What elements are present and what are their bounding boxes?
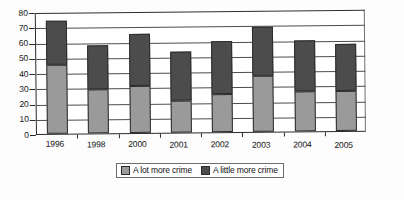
bar-segment: [294, 40, 315, 92]
legend-label-a-lot-more-crime: A lot more crime: [133, 166, 192, 175]
y-axis-tick-label: 10: [19, 115, 28, 124]
x-axis-label-1998: 1998: [87, 139, 106, 149]
bar-series-container: [36, 10, 366, 134]
legend-item-a-lot-more-crime: A lot more crime: [121, 166, 192, 175]
bar-segment: [335, 91, 356, 131]
bar-segment: [46, 21, 67, 65]
bar-segment: [211, 41, 233, 95]
bar-segment: [252, 26, 273, 75]
chart-legend: A lot more crime A little more crime: [116, 163, 284, 178]
bar-segment: [129, 86, 150, 133]
y-axis-tick-label: 40: [19, 70, 28, 79]
bar-group: [293, 10, 315, 131]
bar-segment: [170, 52, 191, 101]
y-axis-tick-label: 70: [19, 24, 28, 33]
legend-item-a-little-more-crime: A little more crime: [201, 166, 278, 175]
y-axis-tick-label: 20: [19, 100, 28, 109]
bar-segment: [294, 92, 315, 132]
y-axis-tick-label: 0: [24, 131, 29, 140]
x-axis-label-2000: 2000: [128, 139, 147, 149]
y-axis-tick-label: 50: [19, 54, 28, 63]
bar-segment: [212, 94, 233, 132]
bar-chart: 01020304050607080 1996199820002001200220…: [0, 0, 404, 200]
bar-group: [335, 10, 357, 131]
y-axis-tick-label: 80: [18, 9, 27, 18]
bar-segment: [253, 75, 275, 132]
x-axis-label-2004: 2004: [293, 140, 312, 150]
bar-group: [128, 12, 150, 133]
bar-group: [211, 11, 233, 132]
bar-group: [46, 13, 68, 134]
y-axis-tick-label: 30: [19, 85, 28, 94]
x-axis-label-2001: 2001: [169, 139, 188, 149]
bar-group: [87, 12, 109, 133]
bar-segment: [87, 45, 108, 89]
x-axis-label-1996: 1996: [46, 139, 65, 149]
bar-segment: [46, 65, 68, 134]
x-axis-label-2005: 2005: [334, 140, 353, 150]
x-axis-label-2003: 2003: [252, 139, 271, 149]
legend-swatch-a-little-more-crime: [201, 166, 210, 175]
legend-swatch-a-lot-more-crime: [121, 166, 130, 175]
y-axis-tick-label: 60: [19, 39, 28, 48]
bar-segment: [88, 89, 109, 133]
y-axis: 01020304050607080: [0, 0, 36, 136]
bar-group: [252, 11, 274, 132]
bar-group: [170, 11, 192, 132]
plot-area: [35, 10, 366, 135]
legend-label-a-little-more-crime: A little more crime: [213, 166, 278, 175]
x-axis-label-2002: 2002: [211, 139, 230, 149]
bar-segment: [335, 44, 356, 91]
x-axis-labels: 19961998200020012002200320042005: [36, 136, 372, 155]
bar-segment: [171, 100, 192, 132]
bar-segment: [129, 34, 150, 86]
